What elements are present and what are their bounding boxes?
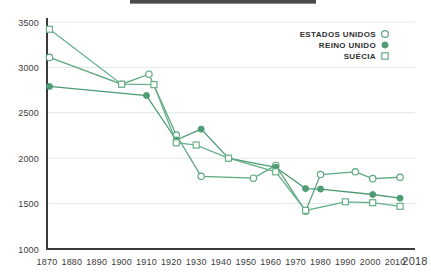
data-point-open-square (119, 81, 125, 87)
y-axis-tick-label: 1000 (18, 245, 39, 255)
legend-label: SUÉCIA (344, 52, 376, 61)
x-axis-tick-label: 1880 (61, 257, 82, 267)
x-axis-tick-label: 1960 (260, 257, 281, 267)
x-axis-tick-label: 2018 (402, 255, 427, 267)
series-line (49, 86, 400, 198)
y-axis-tick-label: 2500 (18, 108, 39, 118)
legend-marker-filled-circle (382, 42, 388, 48)
y-axis-tick-label: 1500 (18, 199, 39, 209)
legend-marker-open-circle (382, 31, 389, 38)
data-point-open-square (173, 140, 179, 146)
x-axis-tick-label: 1940 (211, 257, 232, 267)
x-axis-tick-label: 1870 (37, 257, 58, 267)
data-point-open-circle (397, 174, 403, 180)
x-axis-tick-label: 2000 (360, 257, 381, 267)
x-axis-tick-label: 1900 (111, 257, 132, 267)
data-point-open-square (46, 26, 52, 32)
y-axis-tick-label: 3000 (18, 63, 39, 73)
data-point-filled-circle (318, 186, 324, 192)
legend-marker-open-square (382, 53, 388, 59)
x-axis-tick-label: 1980 (310, 257, 331, 267)
data-point-open-square (342, 199, 348, 205)
data-point-filled-circle (303, 186, 309, 192)
legend-item: SUÉCIA (344, 52, 389, 61)
data-point-open-circle (46, 54, 52, 60)
chart-container: 1000150020002500300035001870188018901900… (0, 0, 431, 276)
data-point-open-circle (370, 175, 376, 181)
data-point-filled-circle (143, 93, 149, 99)
data-point-open-square (226, 155, 232, 161)
series-line (49, 57, 400, 211)
legend-label: REINO UNIDO (319, 41, 376, 50)
line-chart: 1000150020002500300035001870188018901900… (0, 0, 431, 276)
data-point-open-square (397, 203, 403, 209)
data-point-open-circle (317, 171, 323, 177)
data-point-filled-circle (397, 195, 403, 201)
data-point-open-square (273, 169, 279, 175)
series-1 (46, 54, 403, 214)
data-point-filled-circle (198, 126, 204, 132)
y-axis-tick-label: 3500 (18, 18, 39, 28)
data-point-open-square (303, 207, 309, 213)
x-axis-tick-label: 1920 (161, 257, 182, 267)
x-axis-tick-label: 1990 (335, 257, 356, 267)
legend-item: REINO UNIDO (319, 41, 388, 50)
data-point-open-circle (198, 173, 204, 179)
data-point-open-circle (352, 169, 358, 175)
data-point-filled-circle (370, 192, 376, 198)
data-point-open-square (193, 142, 199, 148)
data-point-open-circle (250, 175, 256, 181)
x-axis-tick-label: 1950 (236, 257, 257, 267)
y-axis-tick-label: 2000 (18, 154, 39, 164)
legend-item: ESTADOS UNIDOS (300, 30, 389, 39)
data-point-filled-circle (46, 83, 52, 89)
legend-label: ESTADOS UNIDOS (300, 30, 377, 39)
data-point-open-square (370, 200, 376, 206)
x-axis-tick-label: 1970 (285, 257, 306, 267)
data-point-open-square (151, 82, 157, 88)
x-axis-tick-label: 1890 (86, 257, 107, 267)
series-2 (46, 83, 403, 201)
x-axis-tick-label: 1930 (186, 257, 207, 267)
data-point-open-circle (146, 71, 152, 77)
x-axis-tick-label: 1910 (136, 257, 157, 267)
